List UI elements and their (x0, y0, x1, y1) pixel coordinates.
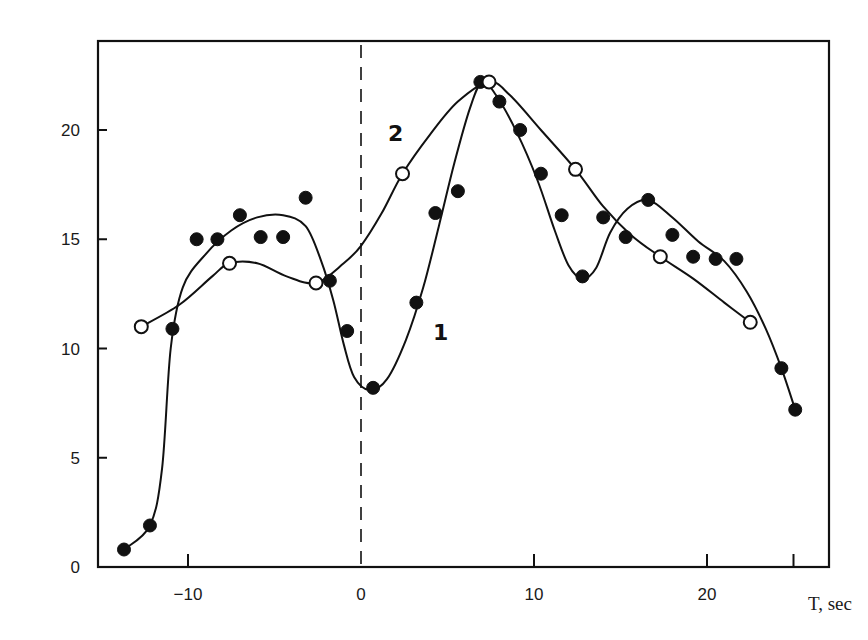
filled-circle-marker (233, 209, 246, 222)
filled-circle-marker (493, 95, 506, 108)
filled-circle-marker (277, 231, 290, 244)
open-circle-marker (569, 163, 582, 176)
filled-circle-marker (117, 543, 130, 556)
open-circle-marker (396, 167, 409, 180)
open-circle-marker (744, 316, 757, 329)
filled-circle-marker (410, 296, 423, 309)
filled-circle-marker (367, 381, 380, 394)
y-axis: 05101520 (61, 121, 107, 577)
filled-circle-marker (323, 274, 336, 287)
y-tick-label: 10 (61, 340, 80, 359)
data-markers (117, 75, 801, 556)
y-tick-label: 5 (71, 449, 80, 468)
filled-circle-marker (789, 403, 802, 416)
x-tick-label: 20 (698, 585, 717, 604)
open-circle-marker (654, 250, 667, 263)
filled-circle-marker (341, 325, 354, 338)
curve-label-2: 2 (388, 121, 403, 146)
filled-circle-marker (709, 252, 722, 265)
filled-circle-marker (143, 519, 156, 532)
filled-circle-marker (534, 167, 547, 180)
filled-circle-marker (166, 322, 179, 335)
curve-labels: 12 (388, 121, 448, 345)
filled-circle-marker (211, 233, 224, 246)
x-tick-label: 0 (356, 585, 365, 604)
filled-circle-marker (730, 252, 743, 265)
filled-circle-marker (254, 231, 267, 244)
x-tick-label: 10 (525, 585, 544, 604)
chart: 05101520 −1001020 12 T, sec (0, 0, 868, 640)
y-tick-label: 0 (71, 558, 80, 577)
plot-frame (98, 41, 829, 567)
filled-circle-marker (687, 250, 700, 263)
open-circle-marker (135, 320, 148, 333)
filled-circle-marker (451, 185, 464, 198)
filled-circle-marker (429, 207, 442, 220)
filled-circle-marker (576, 270, 589, 283)
open-circle-marker (483, 75, 496, 88)
open-circle-marker (223, 257, 236, 270)
fitted-curves (124, 82, 795, 550)
x-axis: −1001020 (174, 554, 794, 604)
filled-circle-marker (597, 211, 610, 224)
filled-circle-marker (666, 228, 679, 241)
series-1-curve (124, 82, 795, 550)
filled-circle-marker (619, 231, 632, 244)
filled-circle-marker (514, 124, 527, 137)
x-tick-label: −10 (174, 585, 203, 604)
x-axis-title: T, sec (808, 593, 852, 614)
filled-circle-marker (190, 233, 203, 246)
series-2-curve (141, 82, 750, 327)
filled-circle-marker (642, 193, 655, 206)
filled-circle-marker (775, 362, 788, 375)
open-circle-marker (310, 276, 323, 289)
curve-label-1: 1 (433, 320, 448, 345)
y-tick-label: 15 (61, 230, 80, 249)
filled-circle-marker (555, 209, 568, 222)
y-tick-label: 20 (61, 121, 80, 140)
filled-circle-marker (299, 191, 312, 204)
